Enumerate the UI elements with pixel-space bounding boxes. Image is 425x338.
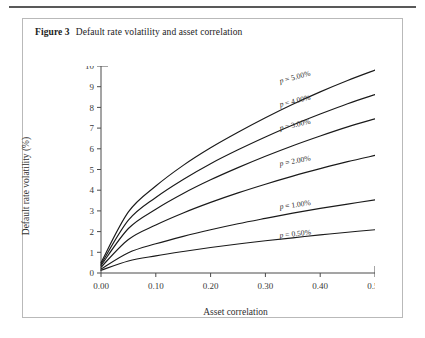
svg-text:0.50: 0.50 <box>367 281 375 291</box>
svg-text:0.00: 0.00 <box>93 281 109 291</box>
svg-text:p = 1.00%: p = 1.00% <box>278 198 312 212</box>
chart-curves <box>101 70 375 270</box>
svg-text:0.10: 0.10 <box>148 281 164 291</box>
svg-text:8: 8 <box>90 103 95 113</box>
svg-text:3: 3 <box>90 206 95 216</box>
svg-text:6: 6 <box>90 144 95 154</box>
y-axis-title: Default rate volatility (%) <box>21 0 31 111</box>
chart-axes: 0123456789100.000.100.200.300.400.50 <box>85 66 375 291</box>
svg-text:p = 2.00%: p = 2.00% <box>278 153 312 168</box>
svg-text:10: 10 <box>85 66 95 71</box>
figure-panel: Figure 3Default rate volatility and asse… <box>22 18 403 318</box>
svg-text:9: 9 <box>90 82 95 92</box>
svg-text:0.40: 0.40 <box>312 281 328 291</box>
svg-text:0: 0 <box>90 268 95 278</box>
svg-text:p = 3.00%: p = 3.00% <box>278 117 312 133</box>
svg-text:7: 7 <box>90 123 95 133</box>
chart-series-labels: p = 5.00%p = 4.00%p = 3.00%p = 2.00%p = … <box>278 68 313 239</box>
figure-caption: Figure 3Default rate volatility and asse… <box>35 27 242 37</box>
svg-text:p = 5.00%: p = 5.00% <box>278 68 312 85</box>
svg-text:0.30: 0.30 <box>258 281 274 291</box>
svg-text:p = 0.50%: p = 0.50% <box>278 227 312 239</box>
svg-text:0.20: 0.20 <box>203 281 219 291</box>
svg-text:2: 2 <box>90 227 95 237</box>
plot-area: 0123456789100.000.100.200.300.400.50 p =… <box>79 66 375 291</box>
top-divider-rule <box>9 6 416 8</box>
svg-text:5: 5 <box>90 165 95 175</box>
line-chart: 0123456789100.000.100.200.300.400.50 p =… <box>79 66 375 291</box>
x-axis-title: Asset correlation <box>45 307 425 317</box>
figure-caption-text: Default rate volatility and asset correl… <box>76 27 243 37</box>
svg-text:1: 1 <box>90 248 95 258</box>
figure-caption-label: Figure 3 <box>35 27 70 37</box>
y-axis-title-text: Default rate volatility (%) <box>21 111 31 261</box>
svg-text:p = 4.00%: p = 4.00% <box>278 92 312 109</box>
svg-text:4: 4 <box>90 185 95 195</box>
